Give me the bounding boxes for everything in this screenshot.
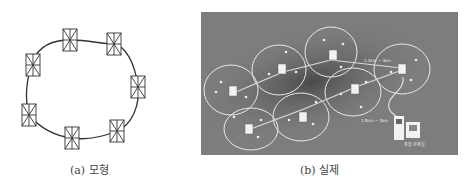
ring-network-diagram (0, 0, 200, 160)
panel-model (0, 0, 200, 160)
link-distance-label-top: 1.2km ~ 3km (364, 58, 391, 63)
caption-model: (a) 모형 (70, 161, 109, 177)
panel-actual-photo: 1.2km ~ 3km 1.5km ~ 3km 종합 관제실 (201, 12, 458, 155)
link-distance-label-bottom: 1.5km ~ 3km (361, 118, 388, 123)
deployment-map: 1.2km ~ 3km 1.5km ~ 3km 종합 관제실 (201, 12, 458, 155)
control-room-icon (394, 116, 420, 140)
caption-actual: (b) 실제 (300, 161, 339, 177)
sensor-node-icons (22, 29, 145, 149)
control-room-label: 종합 관제실 (404, 141, 425, 147)
